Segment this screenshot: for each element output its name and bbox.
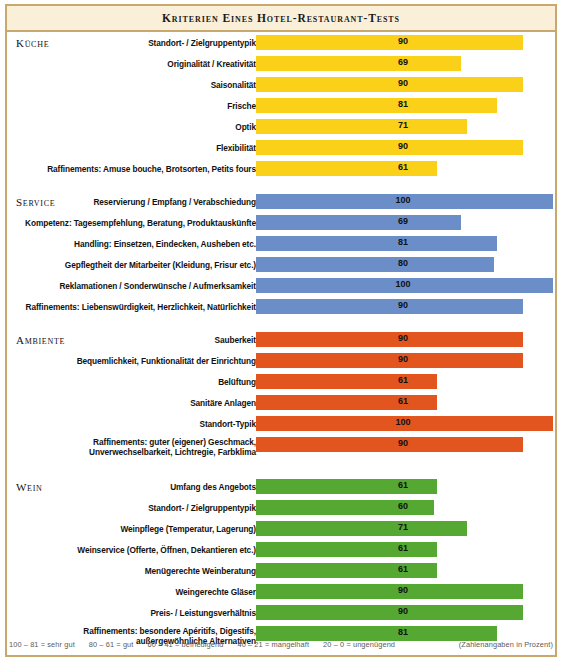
criterion-value: 61 <box>368 543 438 553</box>
chart-row: Reklamationen / Sonderwünsche / Aufmerks… <box>7 277 555 296</box>
criterion-value: 90 <box>368 606 438 616</box>
criterion-value: 90 <box>368 36 438 46</box>
criterion-label: Reservierung / Empfang / Verabschiedung <box>21 193 256 207</box>
chart-row: Sanitäre Anlagen61 <box>7 394 555 413</box>
criterion-label: Belüftung <box>21 373 256 387</box>
criterion-label: Raffinements: guter (eigener) Geschmack,… <box>21 436 256 457</box>
criterion-label: Flexibilität <box>21 139 256 153</box>
chart-row: Handling: Einsetzen, Eindecken, Ausheben… <box>7 235 555 254</box>
legend-scale-0: 100 – 81 = sehr gut <box>9 640 75 649</box>
criterion-label: Standort- / Zielgruppentypik <box>21 34 256 48</box>
chart-plot-area: KücheStandort- / Zielgruppentypik90Origi… <box>7 34 555 634</box>
criterion-value: 80 <box>368 258 438 268</box>
criterion-label: Optik <box>21 118 256 132</box>
chart-row: Weinservice (Offerte, Öffnen, Dekantiere… <box>7 541 555 560</box>
chart-row: Reservierung / Empfang / Verabschiedung1… <box>7 193 555 212</box>
chart-row: Standort- / Zielgruppentypik60 <box>7 499 555 518</box>
criterion-value: 60 <box>368 501 438 511</box>
criterion-value: 61 <box>368 396 438 406</box>
criterion-value: 69 <box>368 57 438 67</box>
criterion-label: Kompetenz: Tagesempfehlung, Beratung, Pr… <box>21 214 256 228</box>
chart-row: Gepflegtheit der Mitarbeiter (Kleidung, … <box>7 256 555 275</box>
criterion-value: 90 <box>368 78 438 88</box>
criterion-label: Gepflegtheit der Mitarbeiter (Kleidung, … <box>21 256 256 270</box>
section-service: ServiceReservierung / Empfang / Verabsch… <box>7 193 555 319</box>
chart-row: Bequemlichkeit, Funktionalität der Einri… <box>7 352 555 371</box>
criterion-value: 100 <box>368 417 438 427</box>
chart-row: Optik71 <box>7 118 555 137</box>
chart-row: Weingerechte Gläser90 <box>7 583 555 602</box>
chart-row: Raffinements: guter (eigener) Geschmack,… <box>7 436 555 466</box>
criterion-value: 71 <box>368 522 438 532</box>
chart-sheet: Kriterien eines Hotel-Restaurant-Tests K… <box>0 0 562 661</box>
section-wein: WeinUmfang des Angebots61Standort- / Zie… <box>7 478 555 655</box>
legend-footer: 100 – 81 = sehr gut 80 – 61 = gut 60 – 4… <box>9 640 553 649</box>
criterion-value: 69 <box>368 216 438 226</box>
criterion-value: 90 <box>368 585 438 595</box>
criterion-label: Raffinements: Liebenswürdigkeit, Herzlic… <box>21 298 256 312</box>
chart-row: Kompetenz: Tagesempfehlung, Beratung, Pr… <box>7 214 555 233</box>
criterion-label: Standort- / Zielgruppentypik <box>21 499 256 513</box>
criterion-label: Handling: Einsetzen, Eindecken, Ausheben… <box>21 235 256 249</box>
section-kche: KücheStandort- / Zielgruppentypik90Origi… <box>7 34 555 181</box>
criterion-value: 81 <box>368 627 438 637</box>
criterion-label: Sauberkeit <box>21 331 256 345</box>
chart-row: Flexibilität90 <box>7 139 555 158</box>
criterion-label: Umfang des Angebots <box>21 478 256 492</box>
page-title: Kriterien eines Hotel-Restaurant-Tests <box>162 12 400 24</box>
legend-scale-1: 80 – 61 = gut <box>89 640 134 649</box>
chart-title-bar: Kriterien eines Hotel-Restaurant-Tests <box>7 6 555 32</box>
criterion-label: Originalität / Kreativität <box>21 55 256 69</box>
criterion-label: Raffinements: Amuse bouche, Brotsorten, … <box>21 160 256 174</box>
chart-row: Sauberkeit90 <box>7 331 555 350</box>
chart-row: Raffinements: Liebenswürdigkeit, Herzlic… <box>7 298 555 317</box>
chart-row: Menügerechte Weinberatung61 <box>7 562 555 581</box>
criterion-value: 100 <box>368 279 438 289</box>
criterion-value: 61 <box>368 564 438 574</box>
criterion-value: 61 <box>368 480 438 490</box>
criterion-label: Reklamationen / Sonderwünsche / Aufmerks… <box>21 277 256 291</box>
criterion-value: 90 <box>368 333 438 343</box>
criterion-value: 81 <box>368 99 438 109</box>
legend-scale-2: 60 – 41 = befriedigend <box>147 640 223 649</box>
criterion-label: Standort-Typik <box>21 415 256 429</box>
criterion-value: 71 <box>368 120 438 130</box>
legend-scale-4: 20 – 0 = ungenügend <box>323 640 395 649</box>
criterion-value: 61 <box>368 375 438 385</box>
criterion-label: Menügerechte Weinberatung <box>21 562 256 576</box>
criterion-label: Weinservice (Offerte, Öffnen, Dekantiere… <box>21 541 256 555</box>
criterion-value: 100 <box>368 195 438 205</box>
chart-row: Standort-Typik100 <box>7 415 555 434</box>
section-ambiente: AmbienteSauberkeit90Bequemlichkeit, Funk… <box>7 331 555 466</box>
criterion-label: Bequemlichkeit, Funktionalität der Einri… <box>21 352 256 366</box>
criterion-label: Frische <box>21 97 256 111</box>
criterion-label: Weingerechte Gläser <box>21 583 256 597</box>
chart-row: Standort- / Zielgruppentypik90 <box>7 34 555 53</box>
criterion-value: 90 <box>368 354 438 364</box>
chart-row: Umfang des Angebots61 <box>7 478 555 497</box>
chart-row: Preis- / Leistungsverhältnis90 <box>7 604 555 623</box>
legend-unit-note: (Zahlenangaben in Prozent) <box>459 640 553 649</box>
criterion-value: 90 <box>368 300 438 310</box>
criterion-value: 90 <box>368 438 438 448</box>
chart-row: Saisonalität90 <box>7 76 555 95</box>
criterion-value: 61 <box>368 162 438 172</box>
criterion-value: 90 <box>368 141 438 151</box>
criterion-value: 81 <box>368 237 438 247</box>
chart-row: Raffinements: Amuse bouche, Brotsorten, … <box>7 160 555 179</box>
legend-scale-3: 40 – 21 = mangelhaft <box>237 640 309 649</box>
criterion-label: Sanitäre Anlagen <box>21 394 256 408</box>
criterion-label: Weinpflege (Temperatur, Lagerung) <box>21 520 256 534</box>
criterion-label: Saisonalität <box>21 76 256 90</box>
chart-row: Originalität / Kreativität69 <box>7 55 555 74</box>
chart-row: Weinpflege (Temperatur, Lagerung)71 <box>7 520 555 539</box>
chart-row: Frische81 <box>7 97 555 116</box>
chart-row: Belüftung61 <box>7 373 555 392</box>
criterion-label: Preis- / Leistungsverhältnis <box>21 604 256 618</box>
